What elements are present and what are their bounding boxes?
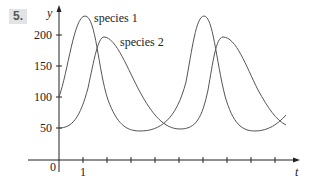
y-axis-label: y [46, 6, 53, 20]
x-axis-label: t [295, 165, 299, 179]
x-tick-label: 0 [50, 160, 56, 174]
x-tick-label: 1 [80, 165, 86, 179]
y-tick-label: 150 [34, 59, 52, 73]
series-species-2 [59, 37, 286, 129]
y-tick-label: 100 [34, 90, 52, 104]
population-chart: y t 200 150 100 50 0 1 species 1 species… [0, 0, 312, 185]
y-tick-label: 200 [34, 28, 52, 42]
y-tick-label: 50 [40, 121, 52, 135]
series-species-1 [59, 16, 286, 131]
x-axis-arrow-icon [293, 158, 300, 163]
series-label-species-2: species 2 [120, 35, 164, 49]
series-label-species-1: species 1 [94, 11, 138, 25]
y-axis-arrow-icon [57, 5, 62, 12]
